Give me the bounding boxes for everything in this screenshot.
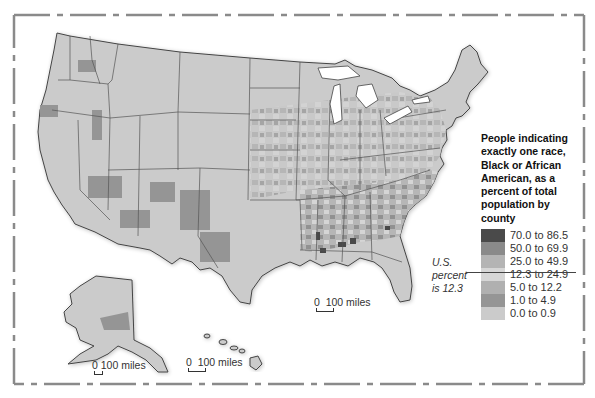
legend-items: 70.0 to 86.5 50.0 to 69.9 25.0 to 49.9 1… bbox=[481, 229, 591, 320]
us-percent-annotation: U.S. percent is 12.3 bbox=[432, 256, 467, 295]
legend-item: 70.0 to 86.5 bbox=[481, 229, 591, 242]
legend: People indicating exactly one race, Blac… bbox=[481, 132, 591, 320]
contiguous-us bbox=[38, 33, 488, 304]
scale-alaska: 0 100 miles bbox=[92, 359, 146, 371]
legend-swatch bbox=[481, 294, 505, 307]
legend-item: 50.0 to 69.9 bbox=[481, 242, 591, 255]
alaska bbox=[64, 276, 168, 372]
legend-title: People indicating exactly one race, Blac… bbox=[481, 132, 591, 225]
legend-swatch bbox=[481, 255, 505, 268]
legend-item: 5.0 to 12.2 bbox=[481, 281, 591, 294]
scale-hawaii: 0 100 miles bbox=[186, 356, 243, 368]
legend-item: 1.0 to 4.9 bbox=[481, 294, 591, 307]
legend-swatch bbox=[481, 242, 505, 255]
scale-hawaii-label: 0 100 miles bbox=[186, 356, 243, 368]
legend-swatch bbox=[481, 268, 505, 281]
legend-swatch bbox=[481, 229, 505, 242]
legend-item: 12.3 to 24.9 bbox=[481, 268, 591, 281]
scale-conus: 0 100 miles bbox=[314, 296, 371, 308]
scale-alaska-label: 0 100 miles bbox=[92, 359, 146, 371]
legend-swatch bbox=[481, 307, 505, 320]
legend-item: 0.0 to 0.9 bbox=[481, 307, 591, 320]
legend-item: 25.0 to 49.9 bbox=[481, 255, 591, 268]
scale-conus-label: 0 100 miles bbox=[314, 296, 371, 308]
us-percent-marker-line bbox=[466, 272, 576, 273]
legend-swatch bbox=[481, 281, 505, 294]
